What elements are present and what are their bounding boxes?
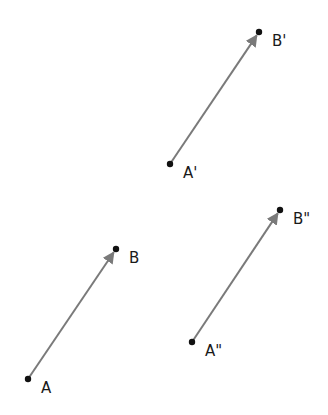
diagram-canvas: A B A' B' A" B" <box>0 0 328 415</box>
point-label-a-prime: A' <box>183 164 197 182</box>
vector-a2b2 <box>192 213 278 342</box>
labels-layer: A B A' B' A" B" <box>41 32 310 397</box>
vectors-layer <box>28 35 278 379</box>
point-a-prime <box>167 161 173 167</box>
point-b-prime <box>256 29 262 35</box>
point-b-double-prime <box>277 207 283 213</box>
vector-ab <box>28 252 114 379</box>
point-a-double-prime <box>189 339 195 345</box>
point-label-a: A <box>41 379 52 397</box>
point-label-b-double-prime: B" <box>293 210 310 228</box>
point-b <box>113 246 119 252</box>
point-a <box>25 376 31 382</box>
points-layer <box>25 29 283 382</box>
point-label-b: B <box>129 249 139 267</box>
vector-a1b1 <box>170 35 257 164</box>
point-label-b-prime: B' <box>272 32 286 50</box>
point-label-a-double-prime: A" <box>205 342 222 360</box>
